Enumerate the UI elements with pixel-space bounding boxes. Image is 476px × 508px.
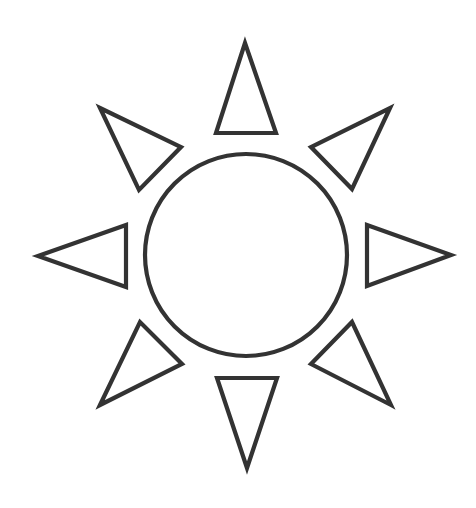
sun-ray-top-icon bbox=[216, 43, 276, 133]
sun-ray-bottom-left-icon bbox=[100, 322, 182, 405]
sun-ray-bottom-right-icon bbox=[311, 322, 391, 405]
sun-ray-top-left-icon bbox=[100, 108, 181, 190]
sun-core-circle bbox=[145, 154, 347, 356]
sun-ray-bottom-icon bbox=[217, 378, 277, 468]
sun-ray-right-icon bbox=[367, 225, 451, 286]
sun-icon bbox=[0, 0, 476, 508]
sun-ray-left-icon bbox=[38, 225, 126, 287]
sun-illustration-canvas bbox=[0, 0, 476, 508]
sun-ray-top-right-icon bbox=[311, 108, 390, 189]
